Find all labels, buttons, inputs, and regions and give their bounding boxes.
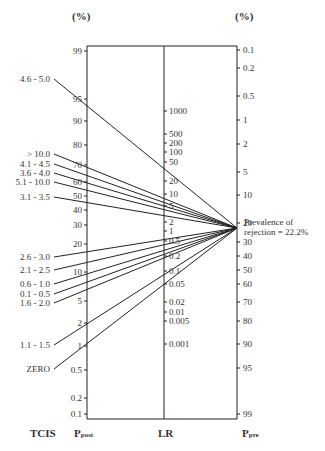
ppre-tick-label: 10 (243, 190, 253, 200)
ppre-tick-label: 60 (243, 279, 253, 289)
ppost-ticks: 99959080706050403020105210.50.20.1 (71, 46, 87, 419)
left-units: (%) (72, 10, 91, 23)
lr-tick-label: 0.005 (169, 316, 190, 326)
nomogram-frame (87, 46, 237, 419)
ppost-tick-label: 99 (73, 46, 83, 56)
ppost-tick-label: 2 (78, 318, 83, 328)
right-units: (%) (235, 10, 254, 23)
lr-tick-label: 100 (169, 147, 183, 157)
ppre-tick-label: 70 (243, 297, 253, 307)
tcis-group-label: ZERO (27, 364, 51, 374)
ppre-tick-label: 95 (243, 363, 253, 373)
prevalence-label-2: rejection = 22.2% (244, 227, 309, 237)
ppre-tick-label: 30 (243, 237, 253, 247)
ppost-tick-label: 30 (73, 220, 83, 230)
ppost-tick-label: 10 (73, 267, 83, 277)
tcis-group-label: 4.6 - 5.0 (20, 74, 50, 84)
lr-tick-label: 0.5 (169, 236, 181, 246)
tcis-line (54, 228, 237, 294)
ppre-tick-label: 90 (243, 339, 253, 349)
ppre-tick-label: 50 (243, 265, 253, 275)
lr-axis-title: LR (158, 427, 174, 439)
ppre-tick-label: 2 (243, 139, 248, 149)
ppost-tick-label: 1 (78, 341, 83, 351)
ppre-axis-title: Ppre (242, 427, 259, 439)
ppost-tick-label: 0.5 (71, 365, 83, 375)
tcis-labels: 4.6 - 5.0> 10.04.1 - 4.53.6 - 4.05.1 - 1… (16, 74, 51, 374)
lr-tick-label: 5 (169, 201, 174, 211)
tcis-group-label: 1.1 - 1.5 (20, 340, 50, 350)
ppost-tick-label: 70 (73, 160, 83, 170)
ppost-tick-label: 60 (73, 177, 83, 187)
lr-ticks: 10005002001005020105210.50.20.10.050.020… (164, 106, 190, 349)
lr-tick-label: 0.001 (169, 339, 189, 349)
tcis-group-label: 3.1 - 3.5 (20, 192, 50, 202)
tcis-axis-title: TCIS (30, 427, 56, 439)
tcis-group-label: 2.1 - 2.5 (20, 265, 50, 275)
lr-tick-label: 20 (169, 176, 179, 186)
lr-tick-label: 0.02 (169, 297, 185, 307)
ppre-tick-label: 99 (243, 409, 253, 419)
lr-tick-label: 50 (169, 157, 179, 167)
tcis-group-label: 2.6 - 3.0 (20, 252, 50, 262)
tcis-group-label: > 10.0 (27, 149, 51, 159)
lr-tick-label: 1 (169, 226, 174, 236)
ppre-tick-label: 0.2 (243, 63, 254, 73)
ppost-tick-label: 40 (73, 205, 83, 215)
lr-tick-label: 10 (169, 189, 179, 199)
nomogram: 99959080706050403020105210.50.20.1 10005… (0, 0, 325, 451)
ppost-tick-label: 5 (78, 296, 83, 306)
ppost-tick-label: 20 (73, 239, 83, 249)
tcis-group-label: 0.6 - 1.0 (20, 279, 50, 289)
tcis-group-label: 5.1 - 10.0 (16, 177, 51, 187)
ppre-tick-label: 80 (243, 316, 253, 326)
lr-tick-label: 0.05 (169, 279, 185, 289)
tcis-group-label: 1.6 - 2.0 (20, 298, 50, 308)
ppost-tick-label: 0.2 (71, 393, 82, 403)
prevalence-label-1: Prevalence of (244, 217, 293, 227)
lr-tick-label: 0.1 (169, 266, 180, 276)
lr-tick-label: 0.2 (169, 251, 180, 261)
ppost-tick-label: 50 (73, 191, 83, 201)
ppre-tick-label: 5 (243, 167, 248, 177)
ppost-tick-label: 90 (73, 116, 83, 126)
ppre-tick-label: 0.1 (243, 45, 254, 55)
ppre-tick-label: 40 (243, 251, 253, 261)
ppost-axis-title: Ppost (74, 427, 94, 439)
ppre-tick-label: 0.5 (243, 91, 255, 101)
ppost-tick-label: 95 (73, 94, 83, 104)
ppre-tick-label: 1 (243, 115, 248, 125)
lr-tick-label: 1000 (169, 106, 188, 116)
ppost-tick-label: 80 (73, 140, 83, 150)
ppost-tick-label: 0.1 (71, 409, 82, 419)
